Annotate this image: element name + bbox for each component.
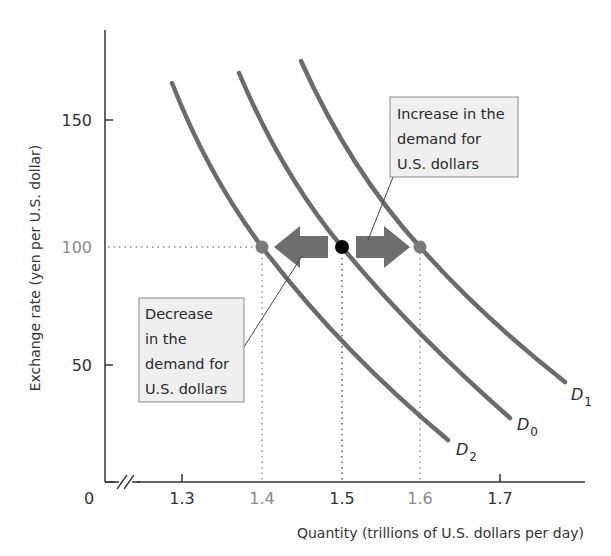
- increase-annotation: Increase in the demand for U.S. dollars: [390, 97, 518, 177]
- decrease-line-2: in the: [145, 331, 187, 347]
- label-d2: D2: [456, 440, 477, 464]
- decrease-leader-line: [244, 256, 302, 347]
- y-axis-title: Exchange rate (yen per U.S. dollar): [27, 145, 43, 392]
- x-tick-1-3: 1.3: [169, 489, 194, 508]
- increase-line-3: U.S. dollars: [397, 156, 479, 172]
- x-tick-1-4: 1.4: [249, 489, 274, 508]
- exchange-rate-chart: Exchange rate (yen per U.S. dollar) 150 …: [0, 0, 611, 556]
- point-shifted-d1: [414, 241, 427, 254]
- point-equilibrium-d0: [335, 240, 349, 254]
- origin-label: 0: [84, 489, 94, 508]
- x-axis-title: Quantity (trillions of U.S. dollars per …: [297, 525, 584, 541]
- right-shift-arrow-icon: [356, 226, 410, 268]
- decrease-line-3: demand for: [145, 356, 229, 372]
- left-shift-arrow-icon: [274, 226, 328, 268]
- axis-break-icon: [105, 474, 140, 490]
- increase-line-1: Increase in the: [397, 106, 505, 122]
- point-shifted-d2: [256, 241, 269, 254]
- decrease-line-4: U.S. dollars: [145, 381, 227, 397]
- label-d0: D0: [517, 415, 538, 439]
- x-tick-1-6: 1.6: [407, 489, 432, 508]
- y-tick-150: 150: [61, 111, 92, 130]
- y-tick-50: 50: [72, 356, 92, 375]
- x-tick-1-7: 1.7: [487, 489, 512, 508]
- decrease-line-1: Decrease: [145, 306, 213, 322]
- increase-line-2: demand for: [397, 131, 481, 147]
- decrease-annotation: Decrease in the demand for U.S. dollars: [139, 298, 244, 402]
- label-d1: D1: [571, 385, 592, 409]
- x-tick-1-5: 1.5: [329, 489, 354, 508]
- y-tick-100: 100: [61, 238, 92, 257]
